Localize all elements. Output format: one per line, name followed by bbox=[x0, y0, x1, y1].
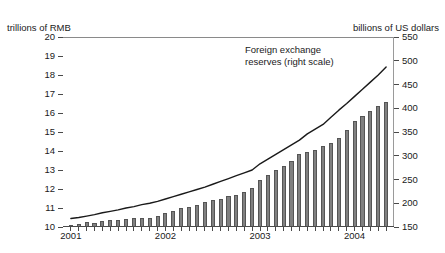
x-minor-tick bbox=[204, 227, 205, 231]
x-axis-baseline bbox=[63, 226, 394, 227]
right-tick-label: 400 bbox=[402, 103, 418, 113]
right-tick bbox=[394, 132, 399, 133]
right-tick bbox=[394, 37, 399, 38]
x-minor-tick bbox=[118, 227, 119, 231]
right-tick bbox=[394, 203, 399, 204]
left-tick-label: 19 bbox=[44, 51, 55, 61]
x-minor-tick bbox=[244, 227, 245, 231]
left-tick-label: 11 bbox=[45, 203, 55, 213]
line-series bbox=[63, 37, 394, 227]
left-tick-label: 20 bbox=[44, 32, 55, 42]
left-tick-label: 13 bbox=[44, 165, 55, 175]
x-axis-year-label: 2001 bbox=[60, 231, 81, 241]
right-tick bbox=[394, 108, 399, 109]
x-minor-tick bbox=[283, 227, 284, 231]
right-tick bbox=[394, 179, 399, 180]
x-axis-year-label: 2003 bbox=[249, 231, 270, 241]
left-tick-label: 17 bbox=[44, 89, 55, 99]
x-axis-year-label: 2004 bbox=[344, 231, 365, 241]
right-tick bbox=[394, 227, 399, 228]
x-minor-tick bbox=[141, 227, 142, 231]
x-minor-tick bbox=[110, 227, 111, 231]
right-tick bbox=[394, 84, 399, 85]
x-minor-tick bbox=[307, 227, 308, 231]
left-tick-label: 14 bbox=[44, 146, 55, 156]
series-annotation: Foreign exchange reserves (right scale) bbox=[245, 44, 334, 67]
x-minor-tick bbox=[378, 227, 379, 231]
annotation-line-1: Foreign exchange bbox=[245, 44, 334, 56]
left-tick-label: 12 bbox=[44, 184, 55, 194]
x-minor-tick bbox=[330, 227, 331, 231]
right-tick-label: 500 bbox=[402, 56, 418, 66]
x-minor-tick bbox=[386, 227, 387, 231]
right-tick-label: 150 bbox=[402, 222, 418, 232]
right-tick-label: 300 bbox=[402, 151, 418, 161]
plot-area: 1011121314151617181920 15020025030035040… bbox=[63, 37, 394, 227]
x-minor-tick bbox=[102, 227, 103, 231]
right-axis-caption: billions of US dollars bbox=[353, 22, 439, 33]
x-minor-tick bbox=[189, 227, 190, 231]
x-minor-tick bbox=[126, 227, 127, 231]
x-minor-tick bbox=[228, 227, 229, 231]
foreign-reserves-line bbox=[71, 67, 386, 219]
x-axis-year-label: 2002 bbox=[155, 231, 176, 241]
x-minor-tick bbox=[315, 227, 316, 231]
right-tick-label: 450 bbox=[402, 80, 418, 90]
right-tick-label: 250 bbox=[402, 175, 418, 185]
x-minor-tick bbox=[323, 227, 324, 231]
left-tick-label: 10 bbox=[44, 222, 55, 232]
left-tick-label: 18 bbox=[44, 70, 55, 80]
right-tick bbox=[394, 60, 399, 61]
x-minor-tick bbox=[133, 227, 134, 231]
x-minor-tick bbox=[299, 227, 300, 231]
right-tick-label: 550 bbox=[402, 32, 418, 42]
x-minor-tick bbox=[291, 227, 292, 231]
x-minor-tick bbox=[338, 227, 339, 231]
x-minor-tick bbox=[86, 227, 87, 231]
x-minor-tick bbox=[181, 227, 182, 231]
x-minor-tick bbox=[196, 227, 197, 231]
x-minor-tick bbox=[94, 227, 95, 231]
x-minor-tick bbox=[149, 227, 150, 231]
x-minor-tick bbox=[220, 227, 221, 231]
left-tick-label: 16 bbox=[44, 108, 55, 118]
right-tick-label: 200 bbox=[402, 198, 418, 208]
annotation-line-2: reserves (right scale) bbox=[245, 56, 334, 68]
left-axis-caption: trillions of RMB bbox=[7, 22, 71, 33]
x-minor-tick bbox=[275, 227, 276, 231]
x-minor-tick bbox=[236, 227, 237, 231]
x-minor-tick bbox=[370, 227, 371, 231]
right-tick-label: 350 bbox=[402, 127, 418, 137]
x-minor-tick bbox=[212, 227, 213, 231]
right-tick bbox=[394, 155, 399, 156]
chart-figure: trillions of RMB billions of US dollars … bbox=[0, 0, 445, 253]
left-tick-label: 15 bbox=[44, 127, 55, 137]
